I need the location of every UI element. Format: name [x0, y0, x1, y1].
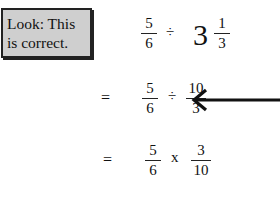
equals-sign: = — [101, 89, 110, 107]
divide-sign: ÷ — [168, 88, 176, 105]
fraction-bar — [191, 160, 211, 161]
divide-sign: ÷ — [166, 24, 174, 41]
fraction-bar — [214, 33, 230, 34]
fraction-5-6: 5 6 — [145, 143, 161, 178]
left-arrow-icon — [190, 88, 280, 112]
note-line-1: Look: This — [7, 14, 90, 33]
fraction-bar — [142, 98, 158, 99]
callout-note: Look: This is correct. — [1, 8, 92, 58]
equals-sign: = — [103, 151, 112, 169]
fraction-bar — [141, 33, 157, 34]
fraction-3-10: 3 10 — [191, 143, 211, 178]
fraction-bar — [145, 160, 161, 161]
multiply-sign: x — [171, 149, 179, 166]
fraction-5-6: 5 6 — [142, 81, 158, 116]
whole-number: 3 — [193, 20, 208, 50]
fraction-1-3: 1 3 — [214, 16, 230, 51]
fraction-5-6: 5 6 — [141, 16, 157, 51]
note-line-2: is correct. — [7, 33, 90, 52]
